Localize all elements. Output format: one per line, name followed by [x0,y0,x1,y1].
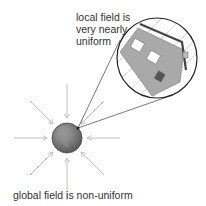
local-label-3: uniform [76,36,111,47]
global-label: global field is non-uniform [13,190,133,201]
local-label-1: local field is [76,12,130,23]
local-label-2: very nearly [76,24,127,35]
